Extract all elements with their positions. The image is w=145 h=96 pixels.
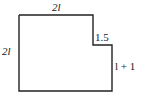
notch-label: 1.5: [95, 31, 109, 43]
left-edge-label: 2l: [2, 45, 11, 57]
l-shape-diagram: 2l 2l 1.5 l + 1: [0, 0, 145, 96]
top-edge-label: 2l: [52, 1, 61, 13]
l-shape-outline: [19, 15, 112, 91]
right-edge-label: l + 1: [115, 60, 135, 72]
